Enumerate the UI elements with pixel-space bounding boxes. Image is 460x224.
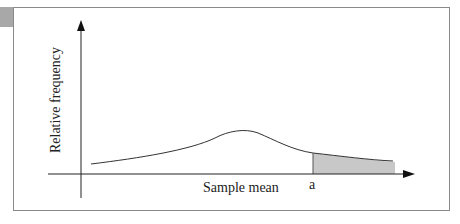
y-axis-label: Relative frequency (48, 47, 64, 153)
x-axis-arrow-icon (403, 170, 415, 178)
y-axis-arrow-icon (77, 20, 85, 31)
shaded-tail-region (313, 153, 395, 174)
x-axis-label: Sample mean (203, 180, 279, 196)
a-marker-label: a (309, 177, 315, 193)
